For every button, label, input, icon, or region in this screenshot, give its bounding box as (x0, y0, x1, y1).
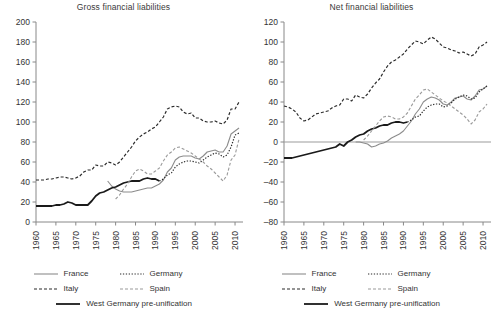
legend-row: FranceGermany (0, 266, 247, 281)
plot-gross-financial-liabilities: 0204060801001201401601802001960196519701… (0, 0, 247, 265)
x-tick-label: 2010 (478, 231, 488, 250)
x-tick-label: 1965 (299, 231, 309, 250)
series-line (116, 139, 239, 199)
legend-label: West Germany pre-unification (86, 299, 192, 308)
legend-row: ItalySpain (0, 281, 247, 296)
x-tick-label: 1960 (279, 231, 289, 250)
legend-label: France (64, 269, 89, 278)
legend-swatch-solid-black-thick (303, 299, 329, 308)
series-line (36, 178, 159, 206)
y-tick-label: 60 (21, 157, 31, 167)
legend-line-icon (303, 299, 329, 308)
legend-swatch-solid-black-thick (55, 299, 81, 308)
y-tick-label: 120 (16, 97, 30, 107)
legend-gross: FranceGermanyItalySpainWest Germany pre-… (0, 266, 247, 311)
legend-item-germany[interactable]: Germany (119, 269, 215, 278)
y-tick-label: 0 (273, 137, 278, 147)
x-tick-label: 2005 (458, 231, 468, 250)
y-tick-label: –60 (264, 197, 278, 207)
x-tick-label: 2000 (438, 231, 448, 250)
legend-swatch-solid-gray (281, 269, 307, 278)
legend-row: West Germany pre-unification (248, 296, 495, 311)
series-line (36, 102, 239, 180)
legend-label: Spain (150, 284, 170, 293)
x-tick-label: 1975 (339, 231, 349, 250)
legend-line-icon (55, 299, 81, 308)
y-tick-label: 160 (16, 57, 30, 67)
legend-item-france[interactable]: France (33, 269, 119, 278)
legend-label: Germany (150, 269, 183, 278)
legend-row: West Germany pre-unification (0, 296, 247, 311)
y-tick-label: 40 (21, 177, 31, 187)
legend-swatch-dotted-black (367, 269, 393, 278)
legend-label: Germany (398, 269, 431, 278)
legend-item-west_germany[interactable]: West Germany pre-unification (303, 299, 440, 308)
x-tick-label: 1985 (379, 231, 389, 250)
y-tick-label: 0 (25, 217, 30, 227)
legend-label: Italy (64, 284, 79, 293)
y-tick-label: 40 (269, 97, 279, 107)
legend-item-west_germany[interactable]: West Germany pre-unification (55, 299, 192, 308)
y-tick-label: 180 (16, 37, 30, 47)
y-tick-label: 120 (264, 17, 278, 27)
x-tick-label: 1975 (91, 231, 101, 250)
x-tick-label: 2005 (210, 231, 220, 250)
legend-swatch-dashed-black (281, 284, 307, 293)
y-tick-label: 80 (21, 137, 31, 147)
legend-swatch-dashed-gray (367, 284, 393, 293)
legend-item-italy[interactable]: Italy (281, 284, 367, 293)
legend-swatch-dashed-black (33, 284, 59, 293)
legend-swatch-solid-gray (33, 269, 59, 278)
legend-label: West Germany pre-unification (334, 299, 440, 308)
legend-item-france[interactable]: France (281, 269, 367, 278)
y-tick-label: 20 (269, 117, 279, 127)
series-line (407, 86, 487, 122)
series-line (284, 37, 487, 121)
y-tick-label: 20 (21, 197, 31, 207)
panel-gross-financial-liabilities: Gross financial liabilities 020406080100… (0, 0, 247, 315)
y-tick-label: –20 (264, 157, 278, 167)
legend-line-icon (281, 284, 307, 293)
y-tick-label: –40 (264, 177, 278, 187)
panel-net-financial-liabilities: Net financial liabilities –80–60–40–2002… (248, 0, 495, 315)
x-tick-label: 1980 (111, 231, 121, 250)
y-tick-label: –80 (264, 217, 278, 227)
y-tick-label: 200 (16, 17, 30, 27)
legend-item-italy[interactable]: Italy (33, 284, 119, 293)
legend-label: France (312, 269, 337, 278)
x-tick-label: 1970 (319, 231, 329, 250)
legend-label: Spain (398, 284, 418, 293)
legend-swatch-dashed-gray (119, 284, 145, 293)
legend-line-icon (367, 269, 393, 278)
x-tick-label: 1995 (170, 231, 180, 250)
series-line (356, 86, 487, 147)
legend-line-icon (367, 284, 393, 293)
legend-item-germany[interactable]: Germany (367, 269, 463, 278)
x-tick-label: 2000 (190, 231, 200, 250)
legend-line-icon (33, 284, 59, 293)
y-tick-label: 100 (264, 37, 278, 47)
y-tick-label: 80 (269, 57, 279, 67)
x-tick-label: 1965 (51, 231, 61, 250)
legend-swatch-dotted-black (119, 269, 145, 278)
x-tick-label: 1995 (418, 231, 428, 250)
legend-item-spain[interactable]: Spain (119, 284, 215, 293)
x-tick-label: 1960 (31, 231, 41, 250)
series-line (364, 89, 487, 140)
x-tick-label: 1970 (71, 231, 81, 250)
x-tick-label: 1990 (398, 231, 408, 250)
legend-row: FranceGermany (248, 266, 495, 281)
legend-line-icon (119, 269, 145, 278)
legend-item-spain[interactable]: Spain (367, 284, 463, 293)
y-tick-label: 140 (16, 77, 30, 87)
legend-label: Italy (312, 284, 327, 293)
plot-net-financial-liabilities: –80–60–40–200204060801001201960196519701… (248, 0, 495, 265)
x-tick-label: 2010 (230, 231, 240, 250)
legend-line-icon (33, 269, 59, 278)
figure-two-panel-line-charts: Gross financial liabilities 020406080100… (0, 0, 495, 315)
legend-row: ItalySpain (248, 281, 495, 296)
legend-line-icon (119, 284, 145, 293)
legend-net: FranceGermanyItalySpainWest Germany pre-… (248, 266, 495, 311)
x-tick-label: 1990 (150, 231, 160, 250)
x-tick-label: 1980 (359, 231, 369, 250)
